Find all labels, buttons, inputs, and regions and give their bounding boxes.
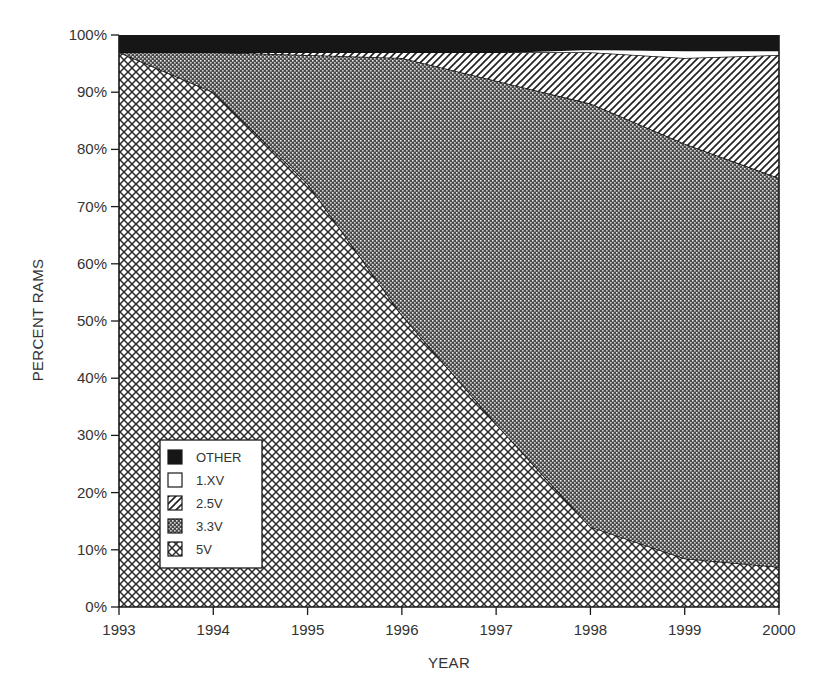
legend: OTHER1.XV2.5V3.3V5V [160,440,262,568]
y-tick-label: 10% [77,541,107,558]
legend-label: 2.5V [196,496,223,511]
area-other [119,35,779,52]
x-tick-label: 1995 [291,621,324,638]
y-axis-title: PERCENT RAMS [29,259,46,382]
y-tick-label: 80% [77,140,107,157]
legend-swatch-5v [168,542,182,556]
x-tick-label: 1999 [668,621,701,638]
y-tick-label: 90% [77,83,107,100]
y-tick-label: 20% [77,484,107,501]
legend-label: 3.3V [196,519,223,534]
x-tick-label: 1994 [197,621,230,638]
y-tick-label: 30% [77,426,107,443]
x-axis-title: YEAR [428,654,470,671]
y-tick-label: 100% [69,26,107,43]
y-tick-label: 60% [77,255,107,272]
legend-swatch-1xv [168,473,182,487]
legend-swatch-25v [168,496,182,510]
legend-swatch-33v [168,519,182,533]
x-tick-label: 1998 [574,621,607,638]
x-tick-label: 2000 [762,621,795,638]
y-tick-label: 50% [77,312,107,329]
legend-swatch-other [168,450,182,464]
y-tick-label: 70% [77,198,107,215]
x-tick-label: 1993 [102,621,135,638]
legend-label: OTHER [196,450,242,465]
y-tick-label: 0% [85,598,107,615]
x-tick-label: 1997 [479,621,512,638]
y-tick-label: 40% [77,369,107,386]
legend-label: 5V [196,542,212,557]
stacked-area-chart: 0%10%20%30%40%50%60%70%80%90%100%1993199… [0,0,825,686]
legend-label: 1.XV [196,473,225,488]
x-tick-label: 1996 [385,621,418,638]
